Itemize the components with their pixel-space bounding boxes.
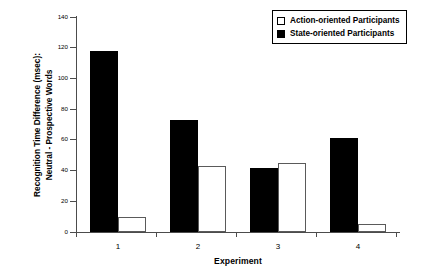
y-tick-label-wrap: 40 — [40, 167, 68, 174]
bar-action-oriented-exp-2 — [198, 166, 226, 232]
y-tick-label: 20 — [42, 198, 68, 204]
x-tick-mark — [236, 232, 237, 237]
bar-action-oriented-exp-4 — [358, 224, 386, 232]
y-tick-label-wrap: 80 — [40, 106, 68, 113]
bar-state-oriented-exp-3 — [250, 168, 278, 233]
bar-action-oriented-exp-3 — [278, 163, 306, 232]
x-tick-mark — [156, 232, 157, 237]
y-tick-label: 140 — [42, 14, 68, 20]
bar-action-oriented-exp-1 — [118, 217, 146, 232]
x-tick-label-exp-2: 2 — [178, 242, 218, 251]
bar-chart-figure: Recognition Time Difference (msec): Neut… — [0, 0, 439, 277]
x-axis-title: Experiment — [76, 256, 400, 266]
legend-label-action-oriented: Action-oriented Participants — [290, 16, 400, 25]
y-tick-label-wrap: 100 — [40, 75, 68, 82]
x-axis-line — [76, 232, 400, 233]
y-tick-label-wrap: 60 — [40, 136, 68, 143]
legend-swatch-filled-square-icon — [277, 30, 285, 38]
x-tick-label-exp-1: 1 — [98, 242, 138, 251]
y-tick-label-wrap: 20 — [40, 198, 68, 205]
x-tick-mark — [396, 232, 397, 237]
x-tick-label-exp-3: 3 — [258, 242, 298, 251]
bar-state-oriented-exp-1 — [90, 51, 118, 232]
y-tick-label-wrap: 0 — [40, 229, 68, 236]
chart-legend: Action-oriented Participants State-orien… — [272, 10, 407, 44]
y-tick-label: 120 — [42, 44, 68, 50]
x-tick-mark — [316, 232, 317, 237]
x-tick-label-exp-4: 4 — [338, 242, 378, 251]
legend-swatch-open-square-icon — [277, 17, 285, 25]
y-axis-title-line-2: Neutral - Prospective Words — [44, 6, 56, 244]
legend-item-state-oriented: State-oriented Participants — [277, 27, 400, 40]
legend-label-state-oriented: State-oriented Participants — [290, 29, 394, 38]
plot-area — [76, 17, 396, 232]
y-tick-label: 100 — [42, 75, 68, 81]
y-axis-title: Recognition Time Difference (msec): Neut… — [0, 0, 46, 250]
y-tick-label-wrap: 120 — [40, 44, 68, 51]
y-tick-label: 40 — [42, 167, 68, 173]
y-tick-label: 60 — [42, 136, 68, 142]
y-tick-label: 0 — [42, 229, 68, 235]
bar-state-oriented-exp-2 — [170, 120, 198, 232]
y-tick-label: 80 — [42, 106, 68, 112]
y-tick-label-wrap: 140 — [40, 14, 68, 21]
bar-state-oriented-exp-4 — [330, 138, 358, 232]
y-axis-title-line-1: Recognition Time Difference (msec): — [32, 6, 44, 244]
legend-item-action-oriented: Action-oriented Participants — [277, 14, 400, 27]
x-tick-mark — [76, 232, 77, 237]
